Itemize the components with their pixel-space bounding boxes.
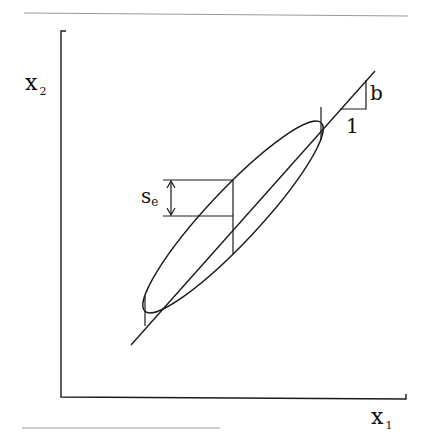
slope-triangle xyxy=(340,80,366,109)
top-rule xyxy=(24,13,408,16)
diagram-canvas xyxy=(0,0,425,441)
slope-run-label: 1 xyxy=(346,114,359,138)
se-label: se xyxy=(141,184,158,208)
x-axis-label: x1 xyxy=(371,404,392,429)
y-axis-label: x2 xyxy=(25,70,46,95)
slope-rise-label: b xyxy=(370,81,383,105)
